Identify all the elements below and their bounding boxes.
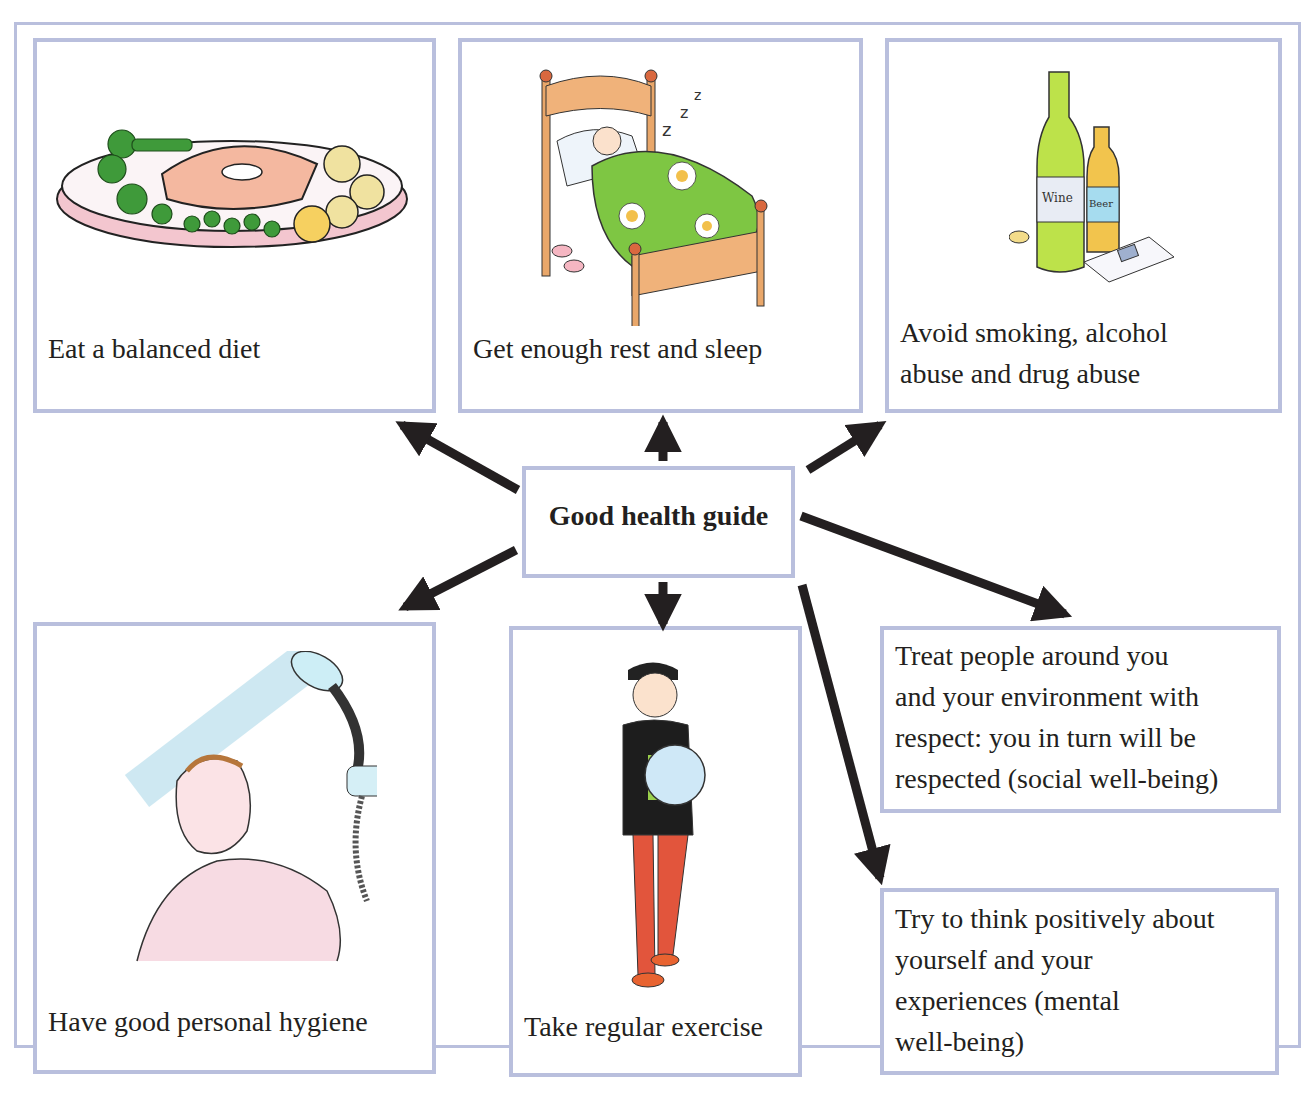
arrow-to-social bbox=[801, 516, 1065, 614]
arrow-to-mental bbox=[802, 585, 880, 878]
arrow-to-hygiene bbox=[405, 550, 516, 607]
arrow-to-avoid bbox=[808, 425, 880, 470]
arrows-layer bbox=[0, 0, 1313, 1111]
arrow-to-diet bbox=[402, 425, 518, 490]
